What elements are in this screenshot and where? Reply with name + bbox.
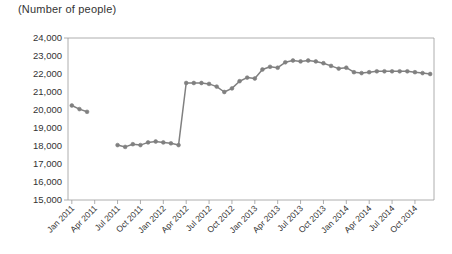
data-point <box>154 140 158 144</box>
data-point <box>169 141 173 145</box>
data-point <box>291 59 295 63</box>
data-point <box>184 81 188 85</box>
data-point <box>131 142 135 146</box>
data-point <box>207 82 211 86</box>
data-point <box>123 145 127 149</box>
data-point <box>116 143 120 147</box>
data-point <box>177 143 181 147</box>
data-point <box>322 61 326 65</box>
data-point <box>421 71 425 75</box>
y-axis-tick-label: 18,000 <box>33 140 62 151</box>
data-point <box>375 69 379 73</box>
chart-plot-area: 24,00023,00022,00021,00020,00019,00018,0… <box>0 0 452 254</box>
y-axis-tick-label: 19,000 <box>33 122 62 133</box>
data-point <box>367 70 371 74</box>
data-point <box>390 69 394 73</box>
data-point <box>253 77 257 81</box>
plot-frame <box>68 38 434 200</box>
y-axis-tick-label: 23,000 <box>33 50 62 61</box>
y-axis-tick-label: 17,000 <box>33 158 62 169</box>
y-axis-tick-label: 22,000 <box>33 68 62 79</box>
data-point <box>329 64 333 68</box>
data-point <box>344 66 348 70</box>
data-point <box>245 76 249 80</box>
data-point <box>405 69 409 73</box>
data-point <box>139 143 143 147</box>
line-chart: (Number of people) 24,00023,00022,00021,… <box>0 0 452 254</box>
data-point <box>85 110 89 114</box>
data-point <box>314 60 318 64</box>
data-point <box>299 60 303 64</box>
data-point <box>428 72 432 76</box>
data-line <box>118 61 431 147</box>
data-point <box>192 81 196 85</box>
data-point <box>268 65 272 69</box>
y-axis-tick-label: 24,000 <box>33 32 62 43</box>
data-point <box>261 68 265 72</box>
data-point <box>337 67 341 71</box>
y-axis-tick-label: 15,000 <box>33 194 62 205</box>
data-point <box>161 141 165 145</box>
y-axis-tick-label: 21,000 <box>33 86 62 97</box>
data-point <box>283 60 287 64</box>
data-point <box>215 85 219 89</box>
data-point <box>230 87 234 91</box>
data-point <box>146 141 150 145</box>
data-point <box>306 59 310 63</box>
data-point <box>413 70 417 74</box>
data-point <box>238 79 242 83</box>
data-point <box>200 81 204 85</box>
data-point <box>276 66 280 70</box>
y-axis-tick-label: 16,000 <box>33 176 62 187</box>
data-point <box>352 70 356 74</box>
data-point <box>70 104 74 108</box>
data-point <box>222 90 226 94</box>
data-point <box>383 69 387 73</box>
data-point <box>398 69 402 73</box>
data-point <box>78 107 82 111</box>
data-point <box>360 71 364 75</box>
y-axis-tick-label: 20,000 <box>33 104 62 115</box>
